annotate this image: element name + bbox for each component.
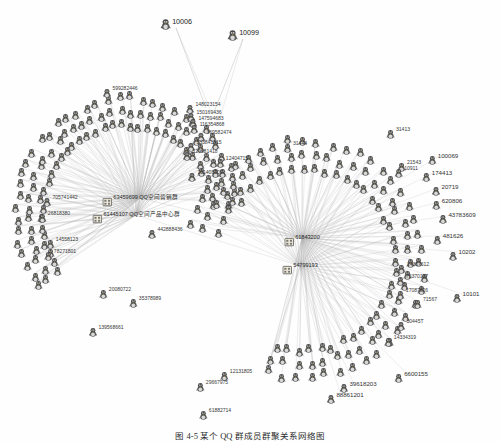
graph-node[interactable]: 35378989 (129, 294, 161, 304)
graph-node[interactable]: 14367612 (397, 260, 429, 270)
graph-node[interactable] (339, 330, 349, 340)
graph-node[interactable] (329, 138, 339, 148)
graph-node[interactable] (146, 107, 156, 117)
graph-node[interactable] (273, 339, 283, 349)
graph-node[interactable] (282, 339, 292, 349)
graph-node[interactable]: 10101 (453, 289, 480, 299)
graph-node[interactable] (366, 151, 376, 161)
graph-node[interactable] (91, 124, 101, 134)
graph-node[interactable]: 10202 (449, 247, 476, 257)
graph-node[interactable] (312, 146, 322, 156)
graph-node[interactable]: 14558123 (46, 235, 78, 245)
graph-node[interactable] (356, 143, 366, 153)
graph-node[interactable] (275, 162, 285, 172)
graph-node[interactable]: 71567 (413, 295, 437, 305)
graph-node[interactable]: 6600155 (394, 369, 428, 379)
graph-node[interactable] (417, 240, 427, 250)
graph-node[interactable]: 31413 (386, 125, 410, 135)
graph-node[interactable] (287, 160, 297, 170)
graph-node[interactable] (277, 369, 287, 379)
graph-node[interactable] (164, 114, 174, 124)
graph-node[interactable]: 39618203 (339, 379, 376, 389)
graph-node[interactable]: 10006 (160, 16, 192, 28)
graph-node[interactable] (133, 119, 143, 129)
graph-node[interactable] (304, 339, 314, 349)
graph-node[interactable] (374, 198, 384, 208)
graph-node[interactable] (344, 345, 354, 355)
graph-node[interactable]: 30445T (397, 317, 424, 327)
graph-node[interactable] (268, 138, 278, 148)
graph-node[interactable] (385, 285, 395, 295)
graph-node[interactable]: 10911 (394, 164, 418, 174)
graph-node[interactable] (405, 197, 415, 207)
graph-node[interactable]: 61882714 (199, 406, 231, 416)
graph-hub-node[interactable]: 61843200 (284, 233, 320, 243)
graph-node[interactable] (403, 240, 413, 250)
graph-node[interactable] (273, 150, 283, 160)
graph-node[interactable] (390, 201, 400, 211)
graph-node[interactable]: 26818380 (38, 209, 70, 219)
graph-node[interactable]: 442888436 (147, 225, 182, 235)
graph-node[interactable] (186, 215, 196, 225)
graph-node[interactable] (342, 141, 352, 151)
graph-node[interactable] (148, 94, 158, 104)
graph-node[interactable] (396, 183, 406, 193)
graph-node[interactable]: 88861201 (326, 390, 363, 400)
graph-node[interactable]: 129681418 (182, 147, 217, 157)
graph-node[interactable]: 151408709 (187, 168, 222, 178)
graph-node[interactable]: 31444 (283, 139, 307, 149)
graph-node[interactable] (359, 180, 369, 190)
graph-node[interactable] (413, 225, 423, 235)
graph-node[interactable]: 78271801 (44, 247, 76, 257)
graph-node[interactable] (71, 106, 81, 116)
graph-node[interactable] (391, 240, 401, 250)
graph-node[interactable] (390, 303, 400, 313)
graph-node[interactable] (255, 171, 265, 181)
graph-node[interactable] (170, 102, 180, 112)
graph-node[interactable]: 20080722 (99, 285, 131, 295)
graph-node[interactable]: 75370197 (396, 272, 428, 282)
graph-node[interactable] (372, 345, 382, 355)
graph-node[interactable]: 12404715 (216, 154, 248, 164)
graph-node[interactable]: 12131805 (220, 367, 252, 377)
graph-node[interactable]: 139568661 (88, 323, 123, 333)
graph-node[interactable] (366, 312, 376, 322)
graph-node[interactable] (266, 166, 276, 176)
graph-node[interactable] (308, 356, 318, 366)
graph-node[interactable] (41, 261, 51, 271)
graph-node[interactable] (27, 144, 37, 154)
graph-node[interactable]: 599282446 (102, 84, 137, 94)
graph-node[interactable]: 174413 (422, 168, 452, 178)
graph-node[interactable] (31, 268, 41, 278)
graph-node[interactable] (198, 189, 208, 199)
graph-node[interactable] (355, 341, 365, 351)
graph-node[interactable] (348, 358, 358, 368)
graph-node[interactable]: 100069 (428, 151, 458, 161)
graph-node[interactable] (377, 295, 387, 305)
graph-node[interactable] (295, 343, 305, 353)
graph-node[interactable] (126, 105, 136, 115)
graph-node[interactable] (259, 152, 269, 162)
graph-node[interactable] (300, 160, 310, 170)
graph-node[interactable] (320, 164, 330, 174)
graph-node[interactable]: 705741442 (42, 193, 77, 203)
graph-node[interactable] (295, 356, 305, 366)
graph-node[interactable] (403, 226, 413, 236)
graph-node[interactable] (379, 181, 389, 191)
graph-node[interactable] (310, 159, 320, 169)
graph-node[interactable] (143, 119, 153, 129)
graph-node[interactable]: 620806 (432, 196, 462, 206)
graph-node[interactable] (318, 338, 328, 348)
graph-node[interactable]: 43783609 (438, 210, 475, 220)
graph-node[interactable]: 481626 (433, 231, 463, 241)
graph-node[interactable] (236, 182, 246, 192)
graph-node[interactable]: 14334319 (384, 333, 416, 343)
graph-node[interactable] (332, 165, 342, 175)
graph-node[interactable] (361, 162, 371, 172)
graph-node[interactable] (401, 214, 411, 224)
graph-node[interactable] (311, 134, 321, 144)
graph-node[interactable] (90, 95, 100, 105)
graph-node[interactable] (385, 217, 395, 227)
graph-node[interactable] (136, 105, 146, 115)
graph-node[interactable]: 369582474 (196, 128, 231, 138)
